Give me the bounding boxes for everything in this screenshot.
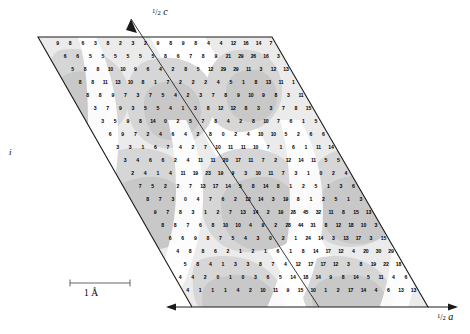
- a-axis-label: 1/2 a: [437, 311, 453, 322]
- contour-shading: [0, 0, 470, 334]
- density-map-svg: [0, 0, 470, 334]
- density-map: [0, 0, 470, 334]
- b-axis-label: i: [9, 147, 12, 157]
- origin-axis-arrowhead: [166, 304, 176, 311]
- c-axis-symbol: c: [163, 6, 167, 17]
- c-axis-denominator: 2: [158, 9, 161, 16]
- a-axis-denominator: 2: [443, 314, 446, 321]
- a-axis-arrowhead: [448, 304, 458, 311]
- scale-bar: [70, 280, 130, 287]
- a-axis-symbol: a: [448, 311, 453, 322]
- scale-bar-caption: 1 Å: [84, 288, 98, 298]
- figure-canvas: 9863823298984412161476655555586789212926…: [0, 0, 470, 334]
- c-axis-label: 1/2 c: [152, 6, 168, 17]
